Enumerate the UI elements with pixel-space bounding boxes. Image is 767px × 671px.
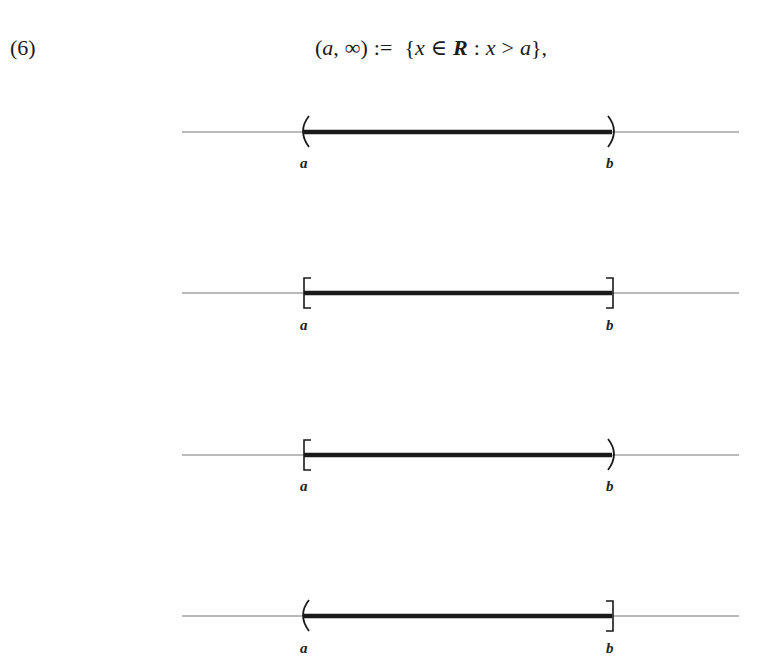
- interval-closed-open: a b: [182, 439, 739, 494]
- interval-closed-closed: a b: [182, 278, 739, 333]
- interval-open-open: a b: [182, 116, 739, 171]
- label-b: b: [606, 478, 614, 494]
- interval-diagrams: a b a b a b a b: [0, 0, 767, 671]
- label-b: b: [606, 155, 614, 171]
- label-a: a: [300, 155, 308, 171]
- label-a: a: [300, 317, 308, 333]
- interval-open-closed: a b: [182, 600, 739, 656]
- label-a: a: [300, 640, 308, 656]
- label-b: b: [606, 640, 614, 656]
- label-a: a: [300, 478, 308, 494]
- label-b: b: [606, 317, 614, 333]
